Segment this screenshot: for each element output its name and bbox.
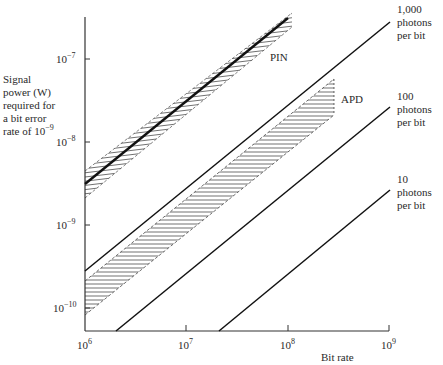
line-100-photons xyxy=(116,107,390,331)
xtick-1e6: 106 xyxy=(77,337,92,351)
y-axis-label: Signal power (W) required for a bit erro… xyxy=(3,73,85,138)
apd-upper-edge xyxy=(85,79,334,281)
line-10-photons xyxy=(219,190,390,331)
ytick-1e-7: 10−7 xyxy=(56,51,76,65)
x-axis-label: Bit rate xyxy=(321,351,354,363)
pin-center-line xyxy=(85,18,288,184)
label-100-photons: 100photonsper bit xyxy=(397,90,432,129)
apd-lower-edge xyxy=(85,115,334,315)
pin-upper-edge xyxy=(85,13,292,171)
ytick-1e-10: 10−10 xyxy=(53,300,77,314)
xtick-1e9: 109 xyxy=(381,337,396,351)
label-10-photons: 10photonsper bit xyxy=(397,173,432,212)
x-ticks xyxy=(186,325,389,331)
ytick-1e-9: 10−9 xyxy=(56,217,76,231)
chart-canvas: 10−7 10−8 10−9 10−10 106 107 108 109 Bit… xyxy=(0,0,443,365)
label-1000-photons: 1,000photonsper bit xyxy=(397,3,432,42)
xtick-1e8: 108 xyxy=(280,337,295,351)
xtick-1e7: 107 xyxy=(178,337,193,351)
apd-label: APD xyxy=(341,93,363,105)
pin-label: PIN xyxy=(270,51,288,63)
